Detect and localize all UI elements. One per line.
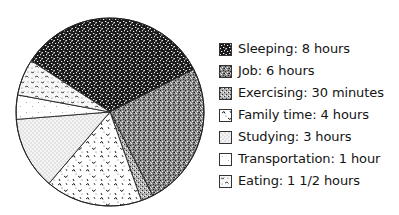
legend-item-eating: Eating: 1 1/2 hours — [219, 170, 397, 192]
pie-chart: Sleeping: 8 hours Job: 6 hours Exercisin… — [0, 0, 399, 215]
pie-plot-area — [0, 0, 215, 215]
legend-swatch-studying-icon — [219, 131, 232, 144]
legend-item-family-time: Family time: 4 hours — [219, 104, 397, 126]
legend-label: Eating: 1 1/2 hours — [238, 173, 360, 189]
legend-item-exercising: Exercising: 30 minutes — [219, 82, 397, 104]
legend-item-job: Job: 6 hours — [219, 60, 397, 82]
legend-label: Studying: 3 hours — [238, 129, 351, 145]
legend-swatch-transportation-icon — [219, 153, 232, 166]
legend-label: Job: 6 hours — [238, 63, 314, 79]
legend-item-studying: Studying: 3 hours — [219, 126, 397, 148]
legend-label: Sleeping: 8 hours — [238, 41, 350, 57]
legend-swatch-family-time-icon — [219, 109, 232, 122]
pie-slices — [16, 18, 204, 206]
legend-swatch-sleeping-icon — [219, 43, 232, 56]
legend-swatch-exercising-icon — [219, 87, 232, 100]
legend-item-sleeping: Sleeping: 8 hours — [219, 38, 397, 60]
legend-item-transportation: Transportation: 1 hour — [219, 148, 397, 170]
legend-swatch-job-icon — [219, 65, 232, 78]
legend: Sleeping: 8 hours Job: 6 hours Exercisin… — [219, 38, 397, 192]
legend-label: Family time: 4 hours — [238, 107, 369, 123]
legend-swatch-eating-icon — [219, 175, 232, 188]
legend-label: Transportation: 1 hour — [238, 151, 380, 167]
legend-label: Exercising: 30 minutes — [238, 85, 384, 101]
